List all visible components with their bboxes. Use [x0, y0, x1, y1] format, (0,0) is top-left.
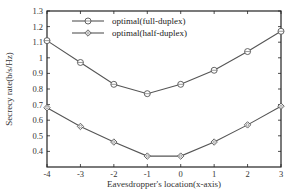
y-tick-label: 1.3 [32, 6, 43, 16]
legend-label: optimal(full-duplex) [112, 16, 185, 26]
y-tick-label: 0.8 [32, 84, 43, 94]
x-tick-label: 1 [212, 169, 216, 179]
x-tick-label: -2 [110, 169, 117, 179]
series-half-duplex [44, 103, 284, 159]
x-tick-label: -3 [77, 169, 84, 179]
diamond-marker [278, 103, 284, 109]
legend-entry: optimal(half-duplex) [72, 28, 187, 38]
x-tick-label: 3 [279, 169, 283, 179]
diamond-marker [144, 153, 150, 159]
y-tick-label: 1.2 [32, 22, 43, 32]
diamond-marker [77, 123, 83, 129]
diamond-marker [44, 105, 50, 111]
diamond-marker [111, 139, 117, 145]
y-tick-label: 0.5 [32, 131, 43, 141]
legend-entry: optimal(full-duplex) [72, 16, 185, 26]
diamond-marker [244, 122, 250, 128]
line-chart: 1.31.21.110.90.80.70.60.50.4 -4-3-2-1012… [0, 0, 296, 193]
x-tick-label: -4 [43, 169, 51, 179]
x-tick-label: 2 [245, 169, 249, 179]
y-tick-label: 0.4 [32, 146, 43, 156]
y-tick-label: 0.6 [32, 115, 43, 125]
legend-label: optimal(half-duplex) [112, 28, 187, 38]
x-axis-label: Eavesdropper's location(x-axis) [107, 179, 221, 189]
y-tick-label: 1 [39, 53, 43, 63]
x-tick-label: -1 [144, 169, 151, 179]
diamond-marker [85, 30, 91, 36]
series-full-duplex [44, 28, 284, 96]
y-tick-label: 1.1 [32, 37, 43, 47]
diamond-marker [178, 153, 184, 159]
diamond-marker [211, 139, 217, 145]
series-layer [44, 28, 284, 159]
series-line [47, 106, 281, 156]
x-tick-label: 0 [179, 169, 183, 179]
legend: optimal(full-duplex)optimal(half-duplex) [72, 16, 187, 38]
y-axis-label: Secrecy rate(b/s/Hz) [4, 52, 14, 126]
y-tick-label: 0.7 [32, 100, 43, 110]
y-tick-label: 0.9 [32, 68, 43, 78]
